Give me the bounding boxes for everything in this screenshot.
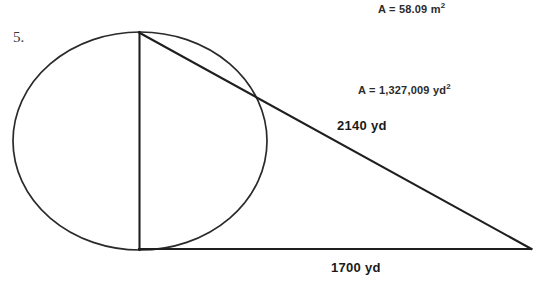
problem-number: 5. [13, 30, 24, 45]
area-yards-value: 1,327,009 [379, 84, 430, 96]
triangle-hypotenuse-line [139, 33, 532, 250]
base-length-label: 1700 yd [331, 261, 381, 274]
area-metric-value: 58.09 [399, 3, 428, 15]
area-yards-unit: yd [433, 84, 446, 96]
hypotenuse-length-label: 2140 yd [337, 119, 387, 132]
worksheet-figure-canvas: 5. A = 58.09 m2 A = 1,327,009 yd2 2140 y… [0, 0, 544, 284]
area-answer-yards: A = 1,327,009 yd2 [358, 85, 451, 96]
area-metric-prefix: A = [378, 3, 399, 15]
area-yards-exponent: 2 [446, 82, 451, 91]
area-yards-prefix: A = [358, 84, 379, 96]
area-metric-exponent: 2 [441, 1, 446, 10]
area-answer-metric: A = 58.09 m2 [378, 4, 445, 15]
geometry-figure [0, 0, 544, 284]
area-metric-unit: m [431, 3, 441, 15]
